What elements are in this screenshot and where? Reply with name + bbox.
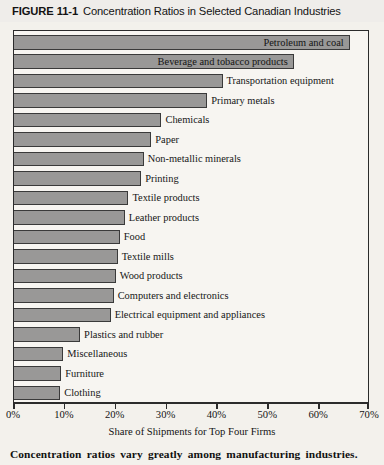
bar xyxy=(13,308,111,323)
bar-label: Food xyxy=(124,229,145,245)
bar xyxy=(13,347,63,362)
bar-row: Textile mills xyxy=(14,248,368,266)
bar-label: Furniture xyxy=(65,366,104,382)
bar-label: Beverage and tobacco products xyxy=(158,54,288,70)
bar-label: Primary metals xyxy=(211,93,274,109)
bar xyxy=(13,191,128,206)
bar-label: Leather products xyxy=(129,210,199,226)
x-axis-title: Share of Shipments for Top Four Firms xyxy=(0,426,384,437)
x-axis-tick xyxy=(267,404,269,409)
x-axis-tick-label: 70% xyxy=(359,409,378,420)
bar-row: Food xyxy=(14,229,368,247)
bar-label: Computers and electronics xyxy=(118,288,229,304)
bar xyxy=(13,74,223,89)
bar-row: Clothing xyxy=(14,385,368,403)
bar-label: Textile products xyxy=(132,190,199,206)
bar-row: Miscellaneous xyxy=(14,346,368,364)
bar xyxy=(13,171,141,186)
bar-label: Chemicals xyxy=(165,112,209,128)
x-axis-line xyxy=(13,402,369,404)
bar-label: Petroleum and coal xyxy=(263,35,343,51)
x-axis-tick-label: 50% xyxy=(258,409,277,420)
bar-label: Miscellaneous xyxy=(67,346,127,362)
bar-row: Wood products xyxy=(14,268,368,286)
bar xyxy=(13,113,161,128)
bar xyxy=(13,386,60,401)
x-axis-tick xyxy=(166,404,168,409)
x-axis-tick xyxy=(13,404,15,409)
bar-row: Transportation equipment xyxy=(14,73,368,91)
x-axis-tick-label: 40% xyxy=(207,409,226,420)
bar-label: Electrical equipment and appliances xyxy=(115,307,265,323)
bar-label: Wood products xyxy=(120,268,183,284)
figure-number: FIGURE 11-1 xyxy=(12,5,78,17)
bar-row: Paper xyxy=(14,131,368,149)
bar xyxy=(13,249,118,264)
bar-row: Primary metals xyxy=(14,92,368,110)
bar-row: Furniture xyxy=(14,365,368,383)
bar-label: Paper xyxy=(155,132,179,148)
bar-label: Printing xyxy=(145,171,179,187)
bar xyxy=(13,230,120,245)
chart-plot-area: Petroleum and coalBeverage and tobacco p… xyxy=(13,30,369,404)
x-axis-tick xyxy=(318,404,320,409)
bar-label: Transportation equipment xyxy=(227,73,334,89)
bar-row: Non-metallic minerals xyxy=(14,151,368,169)
figure-header: FIGURE 11-1 Concentration Ratios in Sele… xyxy=(0,0,384,22)
bar-label: Textile mills xyxy=(122,249,174,265)
bar-row: Textile products xyxy=(14,190,368,208)
x-axis-tick-label: 0% xyxy=(6,409,20,420)
bar-label: Non-metallic minerals xyxy=(148,151,241,167)
x-axis-tick-label: 60% xyxy=(308,409,327,420)
bar xyxy=(13,288,114,303)
bar-row: Chemicals xyxy=(14,112,368,130)
bar-row: Leather products xyxy=(14,209,368,227)
bar-row: Electrical equipment and appliances xyxy=(14,307,368,325)
bar xyxy=(13,269,116,284)
bar xyxy=(13,93,207,108)
x-axis-tick-label: 20% xyxy=(105,409,124,420)
x-axis-tick xyxy=(367,404,369,409)
bar-row: Plastics and rubber xyxy=(14,326,368,344)
bar xyxy=(13,210,125,225)
bar-row: Petroleum and coal xyxy=(14,34,368,52)
figure-title: Concentration Ratios in Selected Canadia… xyxy=(83,5,341,17)
bar-label: Clothing xyxy=(64,385,100,401)
bar-label: Plastics and rubber xyxy=(84,327,163,343)
x-axis-tick xyxy=(64,404,66,409)
bar xyxy=(13,327,80,342)
bar-row: Computers and electronics xyxy=(14,287,368,305)
x-axis-tick xyxy=(115,404,117,409)
bar xyxy=(13,132,151,147)
bars-container: Petroleum and coalBeverage and tobacco p… xyxy=(14,31,368,403)
x-axis: 0%10%20%30%40%50%60%70% xyxy=(13,402,369,418)
x-axis-tick-label: 30% xyxy=(156,409,175,420)
figure-caption: Concentration ratios vary greatly among … xyxy=(10,448,378,460)
bar xyxy=(13,152,144,167)
x-axis-tick xyxy=(216,404,218,409)
bar-row: Printing xyxy=(14,170,368,188)
bar-row: Beverage and tobacco products xyxy=(14,53,368,71)
x-axis-tick-label: 10% xyxy=(54,409,73,420)
bar xyxy=(13,366,61,381)
